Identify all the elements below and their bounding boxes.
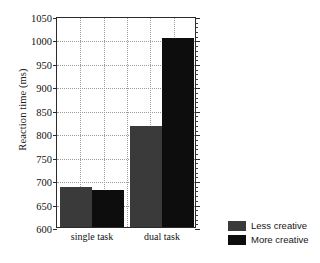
right-axis-minor-tick	[195, 177, 198, 178]
right-axis-minor-tick	[195, 107, 198, 108]
right-axis-minor-tick	[195, 37, 198, 38]
right-axis-minor-tick	[195, 149, 198, 150]
right-axis-minor-tick	[195, 46, 198, 47]
right-axis-minor-tick	[195, 210, 198, 211]
right-axis-minor-tick	[195, 187, 198, 188]
right-axis-minor-tick	[195, 196, 198, 197]
y-axis-tick-mark	[53, 41, 57, 42]
right-axis-minor-tick	[195, 70, 198, 71]
right-axis-major-tick	[195, 65, 200, 66]
right-axis-minor-tick	[195, 224, 198, 225]
right-axis-minor-tick	[195, 168, 198, 169]
bar-chart-figure: Reaction time (ms) 600650700750800850900…	[0, 0, 320, 263]
x-axis-tick-label: dual task	[144, 231, 180, 242]
right-axis-major-tick	[195, 206, 200, 207]
y-axis-tick-mark	[53, 88, 57, 89]
y-axis-tick-mark	[53, 159, 57, 160]
right-axis-minor-tick	[195, 32, 198, 33]
bar	[162, 38, 194, 227]
y-axis-tick-label: 600	[36, 224, 52, 235]
right-axis-minor-tick	[195, 191, 198, 192]
right-axis-major-tick	[195, 229, 200, 230]
right-axis-minor-tick	[195, 154, 198, 155]
y-axis-tick-mark	[53, 182, 57, 183]
right-axis-minor-tick	[195, 126, 198, 127]
y-axis-tick-label: 1000	[31, 36, 52, 47]
right-axis-major-tick	[195, 159, 200, 160]
right-axis-major-tick	[195, 182, 200, 183]
y-axis-tick-label: 1050	[31, 13, 52, 24]
right-axis-major-tick	[195, 41, 200, 42]
right-axis-minor-tick	[195, 98, 198, 99]
right-axis-minor-tick	[195, 84, 198, 85]
right-axis-minor-tick	[195, 163, 198, 164]
y-axis-tick-label: 700	[36, 177, 52, 188]
legend-color-swatch	[228, 235, 246, 245]
y-axis-tick-mark	[53, 206, 57, 207]
right-axis-minor-tick	[195, 145, 198, 146]
legend-color-swatch	[228, 221, 246, 231]
right-axis-minor-tick	[195, 220, 198, 221]
right-axis-minor-tick	[195, 79, 198, 80]
y-axis-tick-label: 900	[36, 83, 52, 94]
y-axis-tick-label: 800	[36, 130, 52, 141]
y-axis-tick-label: 850	[36, 106, 52, 117]
right-axis-minor-tick	[195, 60, 198, 61]
y-axis-tick-mark	[53, 112, 57, 113]
right-axis-minor-tick	[195, 23, 198, 24]
gridline-vertical	[127, 18, 128, 227]
right-axis-minor-tick	[195, 131, 198, 132]
y-axis-tick-mark	[53, 135, 57, 136]
y-axis-tick-label: 650	[36, 200, 52, 211]
legend-item: Less creative	[228, 220, 309, 232]
y-axis-tick-mark	[53, 18, 57, 19]
right-axis-minor-tick	[195, 140, 198, 141]
right-axis-minor-tick	[195, 173, 198, 174]
right-axis-minor-tick	[195, 201, 198, 202]
y-axis-tick-label: 750	[36, 153, 52, 164]
right-axis-minor-tick	[195, 116, 198, 117]
right-axis-minor-tick	[195, 102, 198, 103]
bar	[130, 126, 162, 227]
y-axis-tick-mark	[53, 65, 57, 66]
bar	[60, 187, 92, 227]
y-axis-tick-label: 950	[36, 59, 52, 70]
plot-area: 60065070075080085090095010001050 single …	[56, 17, 196, 228]
right-axis-minor-tick	[195, 27, 198, 28]
bar	[92, 190, 124, 227]
right-axis-minor-tick	[195, 121, 198, 122]
right-axis-minor-tick	[195, 215, 198, 216]
right-axis-minor-tick	[195, 51, 198, 52]
chart-legend: Less creativeMore creative	[228, 220, 309, 246]
legend-label: Less creative	[251, 221, 307, 231]
right-axis-major-tick	[195, 112, 200, 113]
x-axis-tick-label: single task	[71, 231, 114, 242]
legend-item: More creative	[228, 234, 309, 246]
right-axis-minor-tick	[195, 93, 198, 94]
legend-label: More creative	[251, 235, 309, 245]
right-axis-major-tick	[195, 88, 200, 89]
right-axis-minor-tick	[195, 56, 198, 57]
right-axis-major-tick	[195, 18, 200, 19]
y-axis-title: Reaction time (ms)	[17, 40, 28, 180]
y-axis-tick-mark	[53, 229, 57, 230]
right-axis-major-tick	[195, 135, 200, 136]
right-axis-minor-tick	[195, 74, 198, 75]
